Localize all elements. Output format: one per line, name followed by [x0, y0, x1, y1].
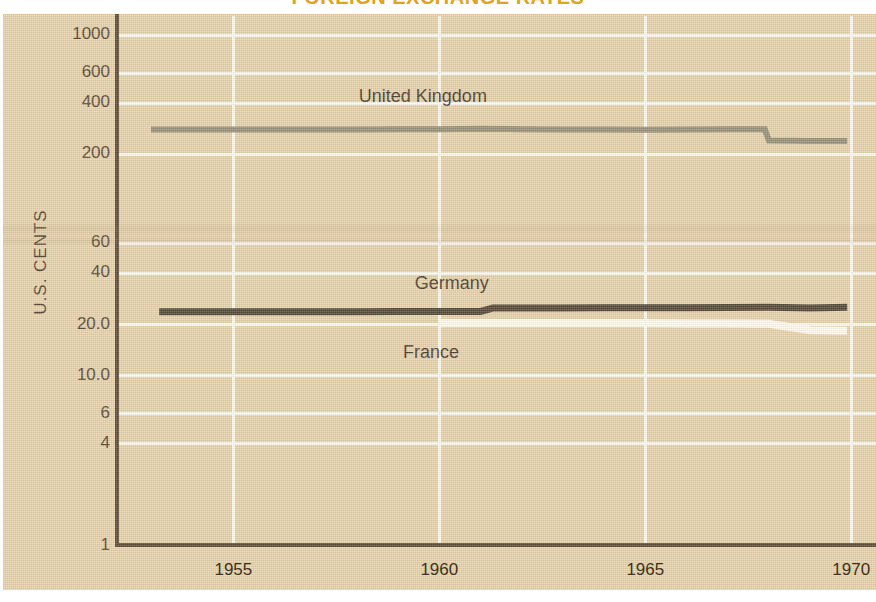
plot-area	[118, 16, 876, 546]
gridline-vertical	[850, 16, 853, 546]
y-tick-label: 10.0	[14, 365, 110, 385]
y-tick-label: 40	[14, 262, 110, 282]
left-margin	[0, 0, 3, 602]
y-axis-line	[115, 14, 119, 547]
bottom-margin	[0, 590, 876, 602]
gridline-vertical	[644, 16, 647, 546]
y-tick-label: 200	[14, 143, 110, 163]
series-label-united-kingdom: United Kingdom	[359, 86, 487, 107]
y-tick-label: 1	[14, 535, 110, 555]
series-label-germany: Germany	[415, 273, 489, 294]
x-tick-label: 1970	[832, 560, 870, 580]
y-tick-label: 4	[14, 433, 110, 453]
y-axis-tick-labels: 1000600400200604020.010.0641	[10, 0, 110, 602]
y-tick-label: 400	[14, 92, 110, 112]
x-tick-label: 1960	[420, 560, 458, 580]
y-tick-label: 60	[14, 232, 110, 252]
y-tick-label: 600	[14, 62, 110, 82]
x-axis-line	[115, 543, 876, 547]
x-tick-label: 1965	[626, 560, 664, 580]
gridline-vertical	[232, 16, 235, 546]
series-label-france: France	[403, 342, 459, 363]
y-tick-label: 20.0	[14, 314, 110, 334]
y-tick-label: 6	[14, 403, 110, 423]
y-tick-label: 1000	[14, 24, 110, 44]
y-axis-title: U.S. CENTS	[31, 209, 51, 314]
chart-title: FOREIGN EXCHANGE RATES	[0, 0, 876, 9]
x-tick-label: 1955	[214, 560, 252, 580]
chart-figure: FOREIGN EXCHANGE RATES 10006004002006040…	[0, 0, 876, 602]
